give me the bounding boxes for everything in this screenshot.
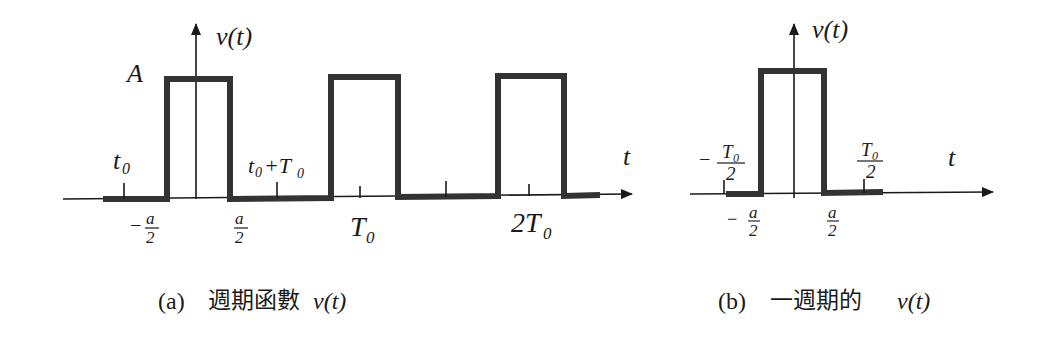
label-t0: t 0	[113, 146, 130, 177]
x-label-a: t	[623, 142, 631, 171]
y-label-a: v(t)	[216, 22, 252, 51]
pulse-train-figure: v(t) A t t 0 t 0 +T 0 − a 2 a 2 T	[0, 0, 1045, 345]
x-label-b: t	[948, 143, 956, 172]
svg-text:a: a	[828, 203, 837, 222]
svg-text:t: t	[248, 153, 255, 178]
svg-text:−: −	[698, 148, 712, 170]
y-label-b: v(t)	[812, 15, 848, 44]
svg-text:0: 0	[255, 165, 262, 180]
svg-text:a: a	[749, 203, 758, 222]
svg-text:2: 2	[866, 161, 876, 182]
svg-text:0: 0	[366, 228, 375, 247]
svg-text:−: −	[129, 214, 143, 236]
svg-text:(b): (b)	[718, 288, 746, 314]
caption-b: (b) 一週期的 v(t)	[718, 287, 930, 314]
svg-text:+T: +T	[264, 153, 293, 178]
svg-text:2: 2	[726, 163, 736, 184]
label-2T0: 2T 0	[511, 207, 552, 243]
label-T0: T 0	[350, 211, 375, 247]
svg-text:−: −	[726, 209, 738, 229]
svg-text:0: 0	[543, 224, 552, 243]
svg-text:v(t): v(t)	[313, 288, 346, 314]
svg-text:a: a	[146, 209, 155, 228]
label-T0-over-2: T 0 2	[857, 139, 883, 182]
label-neg-a-over-2: − a 2	[129, 209, 159, 247]
svg-text:一週期的: 一週期的	[770, 287, 862, 313]
figure-b-one-period: v(t) t − T 0 2 T 0 2 − a 2 a 2	[690, 15, 993, 314]
label-a-over-2-b: a 2	[827, 203, 839, 240]
caption-a: (a) 週期函數 v(t)	[158, 287, 346, 314]
svg-text:0: 0	[297, 166, 304, 181]
single-pulse-signal	[726, 71, 883, 194]
svg-text:(a): (a)	[158, 288, 185, 314]
svg-text:週期函數: 週期函數	[208, 287, 300, 313]
label-t0-plus-T0: t 0 +T 0	[248, 153, 304, 181]
label-a-over-2: a 2	[234, 209, 248, 247]
label-neg-a-over-2-b: − a 2	[726, 203, 760, 240]
amplitude-label: A	[125, 59, 143, 88]
svg-text:0: 0	[122, 160, 130, 177]
pulse-train-signal	[103, 76, 600, 199]
figure-a-periodic-function: v(t) A t t 0 t 0 +T 0 − a 2 a 2 T	[63, 22, 632, 314]
svg-text:2: 2	[828, 221, 837, 240]
svg-text:2: 2	[235, 228, 244, 247]
svg-text:2T: 2T	[511, 207, 543, 238]
svg-text:t: t	[113, 146, 121, 175]
label-neg-T0-over-2: − T 0 2	[698, 141, 745, 184]
svg-text:a: a	[235, 209, 244, 228]
svg-text:2: 2	[146, 228, 155, 247]
svg-text:2: 2	[749, 221, 758, 240]
svg-text:v(t): v(t)	[897, 288, 930, 314]
